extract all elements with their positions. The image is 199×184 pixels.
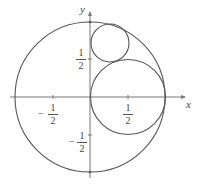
- tick-label-y-half: 1 2: [76, 48, 86, 71]
- bottom-point: [89, 171, 92, 174]
- small-circle: [91, 24, 129, 62]
- x-axis-label: x: [186, 99, 191, 110]
- tick-label-x-neg-sign: −: [38, 108, 44, 119]
- figure: y x 1 2 − 1 2 1 2 − 1 2: [0, 0, 199, 184]
- top-point: [89, 21, 92, 24]
- tick-label-x-neg-half: 1 2: [48, 103, 58, 126]
- tick-label-x-half: 1 2: [123, 103, 133, 126]
- tick-label-y-neg-sign: −: [69, 136, 75, 147]
- y-axis-arrow-icon: [88, 11, 92, 16]
- y-axis-label: y: [80, 4, 85, 15]
- circles-diagram: [0, 0, 199, 184]
- tick-label-y-neg-half: 1 2: [77, 131, 87, 154]
